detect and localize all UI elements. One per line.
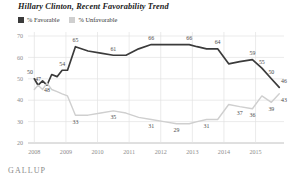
svg-text:2009: 2009 [60, 149, 72, 155]
svg-text:61: 61 [110, 46, 116, 52]
svg-text:35: 35 [110, 114, 116, 120]
svg-text:30: 30 [17, 119, 23, 125]
svg-text:47: 47 [35, 76, 41, 82]
svg-text:31: 31 [148, 123, 154, 129]
svg-text:36: 36 [249, 112, 255, 118]
svg-text:54: 54 [59, 61, 65, 67]
svg-text:46: 46 [281, 78, 287, 84]
svg-text:59: 59 [249, 50, 255, 56]
svg-text:2010: 2010 [91, 149, 103, 155]
gallup-favorability-chart-screenshot: Hillary Clinton, Recent Favorability Tre… [0, 0, 289, 185]
svg-text:39: 39 [268, 106, 274, 112]
svg-text:48: 48 [44, 87, 50, 93]
svg-text:40: 40 [17, 97, 23, 103]
svg-text:55: 55 [259, 59, 265, 65]
svg-text:29: 29 [174, 127, 180, 133]
svg-text:50: 50 [27, 69, 33, 75]
svg-text:2015: 2015 [249, 149, 261, 155]
svg-text:37: 37 [237, 110, 243, 116]
svg-text:60: 60 [17, 55, 23, 61]
svg-text:2011: 2011 [123, 149, 135, 155]
svg-text:2013: 2013 [186, 149, 198, 155]
svg-text:66: 66 [148, 35, 154, 41]
svg-text:65: 65 [72, 37, 78, 43]
y-axis-tick-labels: 203040506070 [17, 33, 23, 146]
svg-text:20: 20 [17, 140, 23, 146]
svg-text:50: 50 [268, 69, 274, 75]
svg-text:70: 70 [17, 33, 23, 39]
chart-plot-area: 203040506070 200820092010201120122013201… [0, 0, 289, 185]
chart-gridlines [28, 32, 284, 143]
svg-text:2012: 2012 [155, 149, 167, 155]
gallup-logo: GALLUP [8, 166, 46, 175]
svg-text:31: 31 [204, 123, 210, 129]
svg-text:2014: 2014 [218, 149, 230, 155]
x-axis-tick-labels: 20082009201020112012201320142015 [28, 149, 261, 155]
svg-text:33: 33 [72, 119, 78, 125]
svg-text:2008: 2008 [28, 149, 40, 155]
svg-text:64: 64 [215, 39, 221, 45]
svg-text:43: 43 [281, 97, 287, 103]
svg-text:50: 50 [17, 76, 23, 82]
svg-text:66: 66 [186, 35, 192, 41]
